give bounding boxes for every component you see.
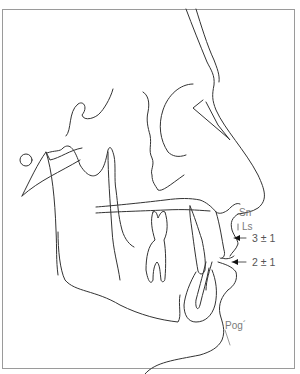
measurement-upper-lip: 3 ± 1 (252, 233, 275, 244)
frontal-contour (143, 92, 184, 190)
nasal-bone-inner (196, 9, 219, 82)
e-line-arrowhead-2 (232, 259, 238, 265)
upper-lip (230, 214, 238, 256)
pog-leader (225, 330, 230, 345)
porion-circle (20, 154, 32, 166)
orbit-curve (160, 84, 193, 156)
cranial-base (47, 146, 134, 247)
label-pog: Pog´ (225, 321, 246, 331)
posterior-vertical (108, 152, 120, 280)
sella-curve (66, 89, 113, 136)
mandible-outline (58, 232, 180, 322)
nasal-wing (193, 100, 230, 140)
lower-lip (218, 262, 237, 290)
label-ls: Ls (242, 222, 253, 232)
upper-lip-inner (216, 212, 225, 259)
measurement-lower-lip: 2 ± 1 (252, 257, 275, 268)
upper-incisor (190, 206, 206, 274)
label-sn: Sn (239, 208, 251, 218)
molar-tooth (146, 211, 167, 282)
bony-chin (184, 270, 216, 322)
ramus-line (46, 152, 58, 275)
profile-tracing (0, 0, 300, 374)
